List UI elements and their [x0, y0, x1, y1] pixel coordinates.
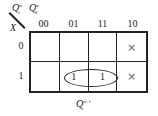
col-var-q1: Qn1: [12, 2, 20, 15]
row-header-0: 0: [15, 40, 27, 51]
col-var-q0-sup: n: [36, 3, 39, 8]
col-var-q0: Qn0: [29, 2, 37, 15]
col-header-00: 00: [29, 18, 58, 29]
cell-1-00: [31, 62, 60, 91]
output-label-sub: 1: [81, 106, 84, 111]
cell-0-01: [60, 33, 89, 62]
col-header-01: 01: [59, 18, 88, 29]
cell-1-10-dont-care: ×: [117, 62, 146, 91]
col-header-10: 10: [118, 18, 147, 29]
row-header-1: 1: [15, 70, 27, 81]
col-var-q1-sup: n: [19, 3, 22, 8]
col-header-11: 11: [88, 18, 117, 29]
col-var-q0-sub: 0: [35, 10, 38, 15]
col-var-q1-sub: 1: [18, 10, 21, 15]
cell-0-11: [89, 33, 118, 62]
grouping-ellipse: [64, 69, 118, 87]
output-label: Qn+11: [76, 98, 84, 111]
output-label-sup: n+1: [83, 99, 91, 104]
cell-0-00: [31, 33, 60, 62]
cell-0-10-dont-care: ×: [117, 33, 146, 62]
row-var-x: X: [10, 22, 16, 33]
